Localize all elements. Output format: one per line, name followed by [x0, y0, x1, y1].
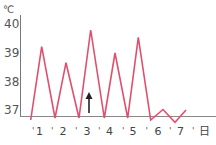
x-tick-mark: '	[75, 126, 77, 136]
x-tick-1: 1	[36, 125, 43, 138]
y-tick-40: 40	[4, 17, 19, 31]
up-arrow-icon	[86, 92, 93, 113]
x-tick-mark: '	[192, 126, 194, 136]
y-tick-38: 38	[4, 75, 19, 89]
y-tick-39: 39	[4, 46, 19, 60]
y-axis-unit-label: ℃	[3, 4, 14, 15]
x-tick-5: 5	[130, 125, 137, 138]
x-tick-mark: '	[169, 126, 171, 136]
x-tick-3: 3	[84, 125, 91, 138]
x-tick-mark: '	[98, 126, 100, 136]
x-tick-mark: '	[146, 126, 148, 136]
temperature-line	[31, 30, 186, 122]
y-tick-37: 37	[4, 103, 19, 117]
x-tick-4: 4	[106, 125, 113, 138]
fever-chart: ℃ 40 39 38 37 ' 1 ' 2 ' 3 ' 4 ' 5 ' 6 ' …	[0, 0, 216, 145]
x-tick-mark: '	[122, 126, 124, 136]
x-tick-7: 7	[177, 125, 184, 138]
x-tick-mark: '	[32, 126, 34, 136]
x-tick-6: 6	[155, 125, 162, 138]
x-axis-unit-label: 日	[199, 125, 210, 138]
x-tick-mark: '	[51, 126, 53, 136]
x-tick-2: 2	[60, 125, 67, 138]
